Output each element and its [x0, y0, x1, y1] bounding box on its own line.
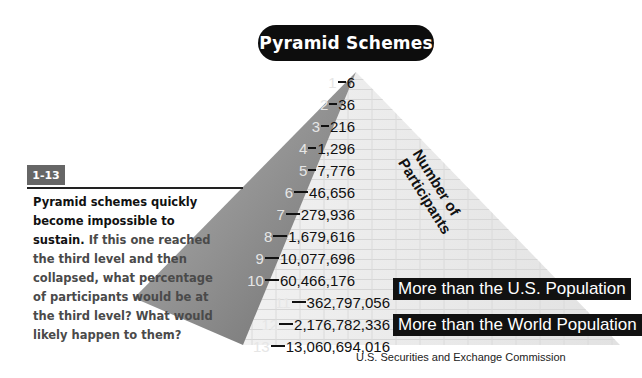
leader-line: [265, 279, 279, 281]
participant-count: 60,466,176: [280, 272, 355, 289]
leader-line: [279, 323, 293, 325]
leader-line: [273, 235, 287, 237]
level-row: 910,077,696: [256, 248, 355, 268]
level-row: 1060,466,176: [247, 270, 355, 290]
level-number: 1: [328, 74, 336, 91]
leader-line: [321, 125, 329, 127]
level-number: 9: [256, 250, 264, 267]
level-number: 3: [312, 118, 320, 135]
participant-count: 36: [338, 96, 355, 113]
source-credit: U.S. Securities and Exchange Commission: [356, 351, 566, 363]
question-body: If this one reached the third level and …: [33, 233, 213, 342]
participant-count: 362,797,056: [307, 294, 390, 311]
level-row: 122,176,782,336: [261, 314, 390, 334]
leader-line: [294, 191, 308, 193]
level-number: 12: [261, 316, 278, 333]
level-number: 13: [253, 338, 270, 355]
level-number: 7: [276, 206, 284, 223]
level-row: 11362,797,056: [275, 292, 390, 312]
level-number: 10: [247, 272, 264, 289]
participant-count: 279,936: [301, 206, 355, 223]
leader-line: [329, 103, 337, 105]
leader-line: [292, 301, 306, 303]
leader-line: [308, 147, 316, 149]
participant-count: 1,296: [317, 140, 355, 157]
participant-count: 46,656: [309, 184, 355, 201]
leader-line: [286, 213, 300, 215]
divider: [27, 187, 243, 189]
level-row: 7279,936: [276, 204, 355, 224]
leader-line: [308, 169, 316, 171]
level-row: 41,296: [299, 138, 355, 158]
leader-line: [338, 81, 346, 83]
level-row: 16: [328, 72, 355, 92]
level-row: 236: [320, 94, 355, 114]
participant-count: 216: [330, 118, 355, 135]
leader-line: [271, 345, 285, 347]
world-population-callout: More than the World Population: [393, 314, 642, 336]
level-number: 6: [285, 184, 293, 201]
figure-badge: 1-13: [27, 165, 65, 185]
level-row: 81,679,616: [264, 226, 355, 246]
level-number: 8: [264, 228, 272, 245]
us-population-callout: More than the U.S. Population: [393, 278, 631, 300]
level-row: 57,776: [299, 160, 355, 180]
participant-count: 6: [347, 74, 355, 91]
level-number: 4: [299, 140, 307, 157]
participant-count: 7,776: [317, 162, 355, 179]
participant-count: 2,176,782,336: [294, 316, 390, 333]
leader-line: [265, 257, 279, 259]
level-row: 3216: [312, 116, 355, 136]
participant-count: 1,679,616: [288, 228, 355, 245]
level-number: 11: [275, 294, 291, 311]
level-row: 646,656: [285, 182, 355, 202]
participant-count: 10,077,696: [280, 250, 355, 267]
question-text: Pyramid schemes quickly become impossibl…: [33, 193, 223, 345]
level-number: 5: [299, 162, 307, 179]
level-number: 2: [320, 96, 328, 113]
